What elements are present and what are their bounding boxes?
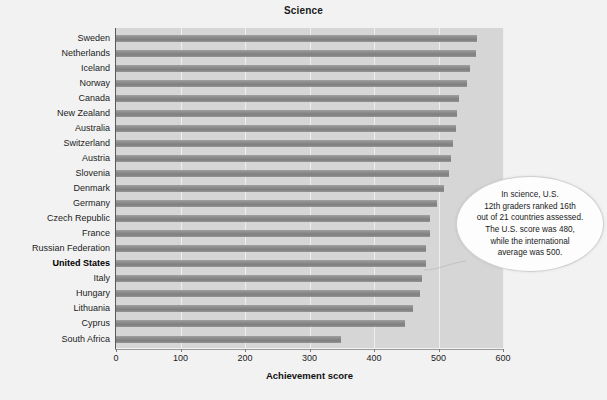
- bar-france: [116, 230, 430, 237]
- category-label-united-states: United States: [0, 256, 110, 271]
- x-tickmark: [181, 349, 182, 352]
- x-tickmark: [503, 349, 504, 352]
- bar-germany: [116, 200, 437, 207]
- bar-row: Australia: [0, 121, 607, 136]
- category-label-new-zealand: New Zealand: [0, 106, 110, 121]
- bar-iceland: [116, 65, 470, 72]
- category-label-sweden: Sweden: [0, 31, 110, 46]
- bar-row: Norway: [0, 76, 607, 91]
- category-label-france: France: [0, 226, 110, 241]
- category-label-south-africa: South Africa: [0, 332, 110, 347]
- category-label-slovenia: Slovenia: [0, 166, 110, 181]
- callout-line: The U.S. score was 480,: [464, 224, 596, 236]
- category-label-canada: Canada: [0, 91, 110, 106]
- bar-row: Cyprus: [0, 316, 607, 331]
- x-tickmark: [310, 349, 311, 352]
- bar-row: Austria: [0, 151, 607, 166]
- callout-line: 12th graders ranked 16th: [464, 201, 596, 213]
- bar-australia: [116, 125, 456, 132]
- x-tick-label: 100: [161, 353, 201, 363]
- x-axis-label: Achievement score: [116, 370, 503, 381]
- callout-line: out of 21 countries assessed.: [464, 212, 596, 224]
- bar-row: Netherlands: [0, 46, 607, 61]
- category-label-australia: Australia: [0, 121, 110, 136]
- callout-text: In science, U.S.12th graders ranked 16th…: [460, 189, 600, 259]
- bar-italy: [116, 275, 422, 282]
- bar-row: Canada: [0, 91, 607, 106]
- x-tick-label: 0: [96, 353, 136, 363]
- chart-title: Science: [0, 5, 607, 16]
- callout-line: In science, U.S.: [464, 189, 596, 201]
- x-tickmark: [439, 349, 440, 352]
- x-tickmark: [245, 349, 246, 352]
- bar-row: Lithuania: [0, 301, 607, 316]
- callout-pointer-line: [424, 258, 468, 276]
- bar-row: New Zealand: [0, 106, 607, 121]
- category-label-cyprus: Cyprus: [0, 316, 110, 331]
- bar-austria: [116, 155, 451, 162]
- bar-new-zealand: [116, 110, 457, 117]
- category-label-italy: Italy: [0, 271, 110, 286]
- category-label-russian-federation: Russian Federation: [0, 241, 110, 256]
- x-tickmark: [374, 349, 375, 352]
- bar-norway: [116, 80, 467, 87]
- x-tick-label: 300: [290, 353, 330, 363]
- bar-lithuania: [116, 305, 413, 312]
- category-label-netherlands: Netherlands: [0, 46, 110, 61]
- bar-switzerland: [116, 140, 453, 147]
- callout-line: average was 500.: [464, 247, 596, 259]
- bar-south-africa: [116, 336, 341, 343]
- category-label-denmark: Denmark: [0, 181, 110, 196]
- category-label-germany: Germany: [0, 196, 110, 211]
- category-label-austria: Austria: [0, 151, 110, 166]
- bar-czech-republic: [116, 215, 430, 222]
- bar-slovenia: [116, 170, 449, 177]
- category-label-switzerland: Switzerland: [0, 136, 110, 151]
- bar-russian-federation: [116, 245, 426, 252]
- category-label-iceland: Iceland: [0, 61, 110, 76]
- x-tick-label: 600: [483, 353, 523, 363]
- bar-denmark: [116, 185, 444, 192]
- category-label-hungary: Hungary: [0, 286, 110, 301]
- bar-hungary: [116, 290, 420, 297]
- bar-netherlands: [116, 50, 476, 57]
- bar-canada: [116, 95, 459, 102]
- bar-row: South Africa: [0, 332, 607, 347]
- x-tickmark: [116, 349, 117, 352]
- science-achievement-bar-chart: Science SwedenNetherlandsIcelandNorwayCa…: [0, 0, 607, 400]
- bar-row: Switzerland: [0, 136, 607, 151]
- category-label-lithuania: Lithuania: [0, 301, 110, 316]
- bar-united-states: [116, 260, 426, 267]
- bar-row: Sweden: [0, 31, 607, 46]
- category-label-norway: Norway: [0, 76, 110, 91]
- callout-line: while the international: [464, 236, 596, 248]
- bar-row: Italy: [0, 271, 607, 286]
- bar-sweden: [116, 35, 477, 42]
- category-label-czech-republic: Czech Republic: [0, 211, 110, 226]
- bar-cyprus: [116, 320, 405, 327]
- bar-row: Hungary: [0, 286, 607, 301]
- x-tick-label: 500: [419, 353, 459, 363]
- x-tick-label: 400: [354, 353, 394, 363]
- x-tick-label: 200: [225, 353, 265, 363]
- callout-bubble: In science, U.S.12th graders ranked 16th…: [456, 176, 604, 272]
- bar-row: Iceland: [0, 61, 607, 76]
